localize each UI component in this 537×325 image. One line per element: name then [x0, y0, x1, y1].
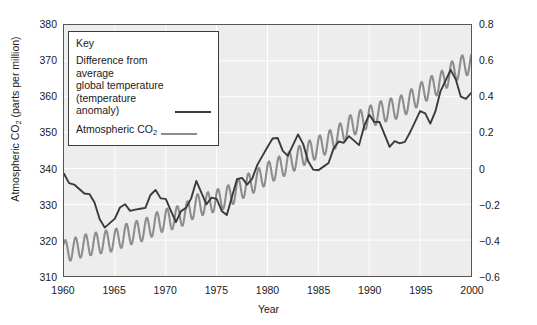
x-axis-tick: 1975: [194, 285, 238, 296]
x-axis-tick: 1965: [92, 285, 136, 296]
right-axis-tick: 0.2: [479, 127, 519, 138]
left-axis-title-subscript: 2: [14, 120, 23, 124]
right-axis-tick: 0.4: [479, 91, 519, 102]
legend-item-co2-subscript: 2: [153, 128, 157, 137]
right-axis-tick: 0.6: [479, 55, 519, 66]
legend-item-co2-label-text: Atmospheric CO: [76, 123, 153, 135]
legend-item-temperature-label: Difference from average global temperatu…: [76, 54, 171, 117]
left-axis-tick: 310: [1, 272, 57, 283]
right-axis-tick: 0.8: [479, 19, 519, 30]
x-axis-title: Year: [0, 303, 537, 315]
x-axis-tick: 2000: [450, 285, 494, 296]
x-axis-tick: 1960: [41, 285, 85, 296]
legend-box: Key Difference from average global tempe…: [68, 31, 219, 146]
left-axis-title-suffix: (parts per million): [9, 36, 21, 120]
x-axis-tick: 1985: [297, 285, 341, 296]
legend-title: Key: [76, 37, 211, 49]
x-axis-tick: 1995: [399, 285, 443, 296]
right-axis-tick: −0.6: [479, 272, 519, 283]
x-axis-tick: 1990: [348, 285, 392, 296]
left-axis-tick: 320: [1, 236, 57, 247]
right-axis-tick: −0.2: [479, 200, 519, 211]
legend-swatch-temperature-icon: [175, 111, 211, 113]
x-axis-tick: 1970: [143, 285, 187, 296]
left-axis-title: Atmospheric CO2 (parts per million): [9, 9, 23, 229]
left-axis-title-text: Atmospheric CO: [9, 125, 21, 202]
x-axis-tick: 1980: [246, 285, 290, 296]
right-axis-tick: 0: [479, 164, 519, 175]
legend-item-co2: Atmospheric CO2: [76, 123, 211, 140]
legend-item-temperature: Difference from average global temperatu…: [76, 54, 211, 117]
legend-swatch-co2-icon: [161, 133, 197, 135]
chart-figure: 380370360350340330320310 0.80.60.40.20−0…: [0, 0, 537, 325]
legend-item-co2-label: Atmospheric CO2: [76, 123, 157, 140]
right-axis-tick: −0.4: [479, 236, 519, 247]
